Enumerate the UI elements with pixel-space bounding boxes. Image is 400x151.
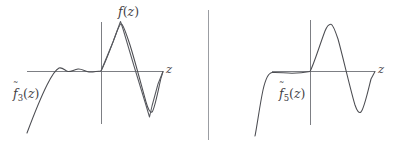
right-panel-z-axis-label: z (378, 64, 384, 76)
figure-plot-svg (0, 0, 400, 151)
left-panel-curve-f (27, 24, 163, 133)
figure-container: f(z) ˜f3(z) ˜f5(z) z z (0, 0, 400, 151)
label-f5-tilde: ˜f5(z) (279, 88, 305, 102)
label-f-of-z-close-paren: ) (134, 4, 139, 19)
label-f3-tilde: ˜f3(z) (13, 88, 39, 102)
left-panel-curve-f3-approx (101, 22, 163, 118)
label-f-of-z: f(z) (118, 6, 139, 19)
left-panel-group (27, 22, 163, 134)
right-panel-group (255, 20, 375, 136)
label-f3-tilde-f-wrap: ˜f (13, 88, 18, 101)
right-panel-curve-f5 (255, 24, 375, 136)
left-panel-z-axis-label: z (166, 64, 172, 76)
label-f5-tilde-f-wrap: ˜f (279, 88, 284, 101)
label-f3-close-paren: ) (35, 86, 40, 101)
label-f5-close-paren: ) (301, 86, 306, 101)
label-f5-arg: z (294, 86, 301, 101)
label-f3-arg: z (28, 86, 35, 101)
tilde-icon: ˜ (13, 81, 19, 93)
tilde-icon: ˜ (279, 81, 285, 93)
